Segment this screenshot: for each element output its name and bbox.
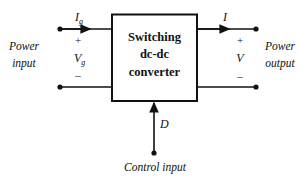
input-current-label: Ig — [74, 10, 83, 26]
diagram-svg: Switching dc-dc converter Ig + Vg – Powe… — [0, 0, 300, 179]
block-label-line-1: Switching — [128, 30, 182, 44]
control-input-label: Control input — [124, 161, 187, 174]
input-voltage-label: Vg — [74, 51, 85, 67]
output-minus-sign: – — [236, 70, 243, 82]
power-input-label-line-1: Power — [8, 40, 40, 52]
output-bottom-terminal — [253, 84, 258, 89]
input-plus-sign: + — [75, 34, 81, 46]
control-terminal — [151, 150, 156, 155]
input-bottom-terminal — [57, 84, 62, 89]
input-minus-sign: – — [74, 69, 81, 81]
power-output-label-line-1: Power — [264, 40, 296, 52]
power-output-label-line-2: output — [265, 57, 295, 70]
output-plus-sign: + — [237, 34, 243, 46]
power-input-label-line-2: input — [12, 57, 36, 70]
control-signal-label: D — [159, 117, 169, 131]
output-voltage-label: V — [236, 51, 245, 65]
converter-diagram: Switching dc-dc converter Ig + Vg – Powe… — [0, 0, 300, 179]
block-label-line-3: converter — [129, 65, 181, 79]
input-top-terminal — [57, 26, 62, 31]
output-current-label: I — [222, 10, 228, 24]
output-top-terminal — [253, 26, 258, 31]
block-label-line-2: dc-dc — [140, 47, 170, 61]
